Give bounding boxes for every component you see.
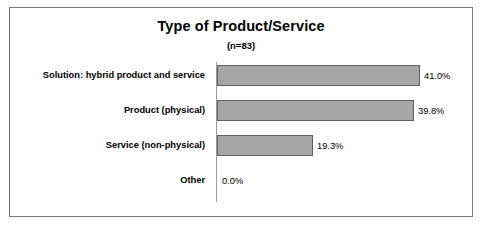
bar[interactable]: [217, 100, 414, 121]
bar-row: Service (non-physical) 19.3%: [10, 128, 472, 163]
bar-row: Other 0.0%: [10, 163, 472, 198]
category-label: Other: [10, 163, 210, 198]
bar-wrapper: 39.8%: [217, 93, 472, 128]
bar-wrapper: 0.0%: [217, 163, 472, 198]
bar[interactable]: [217, 135, 313, 156]
chart-subtitle: (n=83): [10, 40, 472, 51]
bar-wrapper: 41.0%: [217, 58, 472, 93]
bar-value-label: 19.3%: [317, 141, 343, 151]
bar-wrapper: 19.3%: [217, 128, 472, 163]
chart-container: Type of Product/Service (n=83) Solution:…: [9, 7, 473, 217]
category-label: Product (physical): [10, 93, 210, 128]
bar-row: Solution: hybrid product and service 41.…: [10, 58, 472, 93]
chart-title: Type of Product/Service: [10, 18, 472, 34]
category-label: Service (non-physical): [10, 128, 210, 163]
category-label: Solution: hybrid product and service: [10, 58, 210, 93]
plot-area: Solution: hybrid product and service 41.…: [10, 58, 472, 208]
bar-value-label: 0.0%: [222, 176, 243, 186]
bar[interactable]: [217, 65, 420, 86]
bar-value-label: 39.8%: [418, 106, 444, 116]
bar-value-label: 41.0%: [424, 71, 450, 81]
bar-row: Product (physical) 39.8%: [10, 93, 472, 128]
